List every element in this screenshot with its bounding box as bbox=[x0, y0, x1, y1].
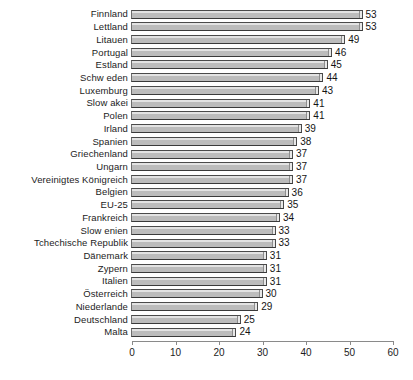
bar-track: 38 bbox=[131, 135, 413, 148]
bar-row: Frankreich34 bbox=[0, 212, 413, 225]
x-axis-tick bbox=[263, 341, 264, 345]
bar-value-label: 43 bbox=[322, 85, 333, 97]
category-label: Luxemburg bbox=[0, 86, 131, 96]
bar-track: 53 bbox=[131, 8, 413, 21]
bar bbox=[131, 239, 276, 248]
bar bbox=[131, 175, 293, 184]
bar-value-label: 37 bbox=[296, 148, 307, 160]
bar bbox=[131, 200, 284, 209]
bar-value-label: 30 bbox=[266, 288, 277, 300]
bar bbox=[131, 264, 267, 273]
category-label: Ungarn bbox=[0, 162, 131, 172]
bar bbox=[131, 73, 323, 82]
bar-track: 31 bbox=[131, 250, 413, 263]
bar-row: Lettland53 bbox=[0, 21, 413, 34]
bar-track: 41 bbox=[131, 110, 413, 123]
category-label: Frankreich bbox=[0, 213, 131, 223]
category-label: Malta bbox=[0, 327, 131, 337]
bar-value-label: 37 bbox=[296, 161, 307, 173]
category-label: Österreich bbox=[0, 289, 131, 299]
category-label: Schw eden bbox=[0, 73, 131, 83]
bar-value-label: 49 bbox=[348, 34, 359, 46]
category-label: Estland bbox=[0, 60, 131, 70]
bar-row: Estland45 bbox=[0, 59, 413, 72]
bar bbox=[131, 251, 267, 260]
x-axis-tick bbox=[176, 341, 177, 345]
bar-row: Spanien38 bbox=[0, 135, 413, 148]
category-label: Slow enien bbox=[0, 226, 131, 236]
bar-track: 29 bbox=[131, 301, 413, 314]
category-label: Vereinigtes Königreich bbox=[0, 175, 131, 185]
category-label: Niederlande bbox=[0, 302, 131, 312]
bar-row: Dänemark31 bbox=[0, 250, 413, 263]
bar-row: Italien31 bbox=[0, 275, 413, 288]
bar-value-label: 38 bbox=[300, 136, 311, 148]
bar bbox=[131, 35, 345, 44]
bar-track: 37 bbox=[131, 161, 413, 174]
bar-row: Belgien36 bbox=[0, 186, 413, 199]
bar bbox=[131, 188, 289, 197]
category-label: Irland bbox=[0, 124, 131, 134]
bar-track: 45 bbox=[131, 59, 413, 72]
bar-track: 31 bbox=[131, 262, 413, 275]
category-label: Zypern bbox=[0, 264, 131, 274]
bar-track: 33 bbox=[131, 224, 413, 237]
x-axis-tick bbox=[219, 341, 220, 345]
bar-row: Niederlande29 bbox=[0, 301, 413, 314]
x-axis-tick-label: 40 bbox=[300, 347, 311, 359]
bar bbox=[131, 137, 297, 146]
bar bbox=[131, 150, 293, 159]
bar bbox=[131, 289, 263, 298]
bar bbox=[131, 213, 280, 222]
bar bbox=[131, 277, 267, 286]
bar-row: EU-2535 bbox=[0, 199, 413, 212]
category-label: Slow akei bbox=[0, 98, 131, 108]
category-label: Spanien bbox=[0, 137, 131, 147]
bar-row: Portugal46 bbox=[0, 46, 413, 59]
x-axis-tick-label: 50 bbox=[344, 347, 355, 359]
bar-chart: Finnland53Lettland53Litauen49Portugal46E… bbox=[0, 0, 413, 380]
bar-row: Österreich30 bbox=[0, 288, 413, 301]
bar-rows-container: Finnland53Lettland53Litauen49Portugal46E… bbox=[0, 8, 413, 339]
bar-row: Deutschland25 bbox=[0, 313, 413, 326]
bar-track: 53 bbox=[131, 21, 413, 34]
category-label: Deutschland bbox=[0, 315, 131, 325]
bar-row: Finnland53 bbox=[0, 8, 413, 21]
x-axis-tick-label: 10 bbox=[170, 347, 181, 359]
bar-value-label: 31 bbox=[270, 250, 281, 262]
bar-row: Slow enien33 bbox=[0, 224, 413, 237]
bar-track: 33 bbox=[131, 237, 413, 250]
category-label: Tchechische Republik bbox=[0, 238, 131, 248]
x-axis-tick-label: 20 bbox=[213, 347, 224, 359]
bar bbox=[131, 86, 319, 95]
bar-row: Griechenland37 bbox=[0, 148, 413, 161]
bar-value-label: 31 bbox=[270, 276, 281, 288]
bar bbox=[131, 124, 302, 133]
bar bbox=[131, 60, 328, 69]
bar-value-label: 35 bbox=[287, 199, 298, 211]
category-label: EU-25 bbox=[0, 200, 131, 210]
bar-row: Ungarn37 bbox=[0, 161, 413, 174]
bar-row: Irland39 bbox=[0, 122, 413, 135]
bar-track: 44 bbox=[131, 72, 413, 85]
bar bbox=[131, 162, 293, 171]
bar-row: Luxemburg43 bbox=[0, 84, 413, 97]
category-label: Lettland bbox=[0, 22, 131, 32]
x-axis-tick-label: 0 bbox=[129, 347, 135, 359]
bar-value-label: 46 bbox=[335, 47, 346, 59]
bar-track: 41 bbox=[131, 97, 413, 110]
x-axis-tick bbox=[393, 341, 394, 345]
x-axis-tick-label: 60 bbox=[387, 347, 398, 359]
x-axis-tick bbox=[132, 341, 133, 345]
bar-track: 43 bbox=[131, 84, 413, 97]
bar-track: 25 bbox=[131, 313, 413, 326]
bar-row: Schw eden44 bbox=[0, 72, 413, 85]
x-axis-tick bbox=[350, 341, 351, 345]
bar-track: 46 bbox=[131, 46, 413, 59]
bar-value-label: 33 bbox=[279, 225, 290, 237]
bar-value-label: 44 bbox=[326, 72, 337, 84]
bar-value-label: 31 bbox=[270, 263, 281, 275]
bar-value-label: 41 bbox=[313, 98, 324, 110]
bar-track: 30 bbox=[131, 288, 413, 301]
bar-track: 39 bbox=[131, 122, 413, 135]
